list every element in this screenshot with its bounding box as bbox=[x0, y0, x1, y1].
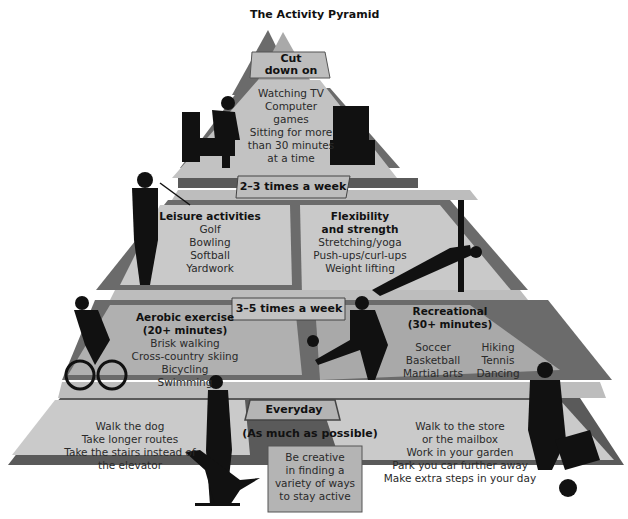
list-item: Dancing bbox=[468, 367, 528, 380]
recreational-col2: Hiking Tennis Dancing bbox=[468, 341, 528, 380]
list-item: Stretching/yoga bbox=[305, 236, 415, 249]
list-item: Be creative bbox=[270, 451, 360, 464]
list-item: Bowling bbox=[155, 236, 265, 249]
list-item: Martial arts bbox=[398, 367, 468, 380]
list-item: Basketball bbox=[398, 354, 468, 367]
list-item: Walk to the store bbox=[380, 420, 540, 433]
frequency-2-3-label: 2–3 times a week bbox=[238, 180, 348, 193]
list-item: Hiking bbox=[468, 341, 528, 354]
frequency-3-5-label: 3–5 times a week bbox=[234, 302, 344, 315]
list-item: Walk the dog bbox=[55, 420, 205, 433]
list-item: Swimming bbox=[120, 376, 250, 389]
list-item: the elevator bbox=[55, 459, 205, 472]
list-item: Park you car further away bbox=[380, 459, 540, 472]
cut-down-label: Cut down on bbox=[258, 53, 324, 77]
as-much-as-possible-label: (As much as possible) bbox=[240, 427, 380, 440]
list-item: Take the stairs instead of bbox=[55, 446, 205, 459]
list-item: Tennis bbox=[468, 354, 528, 367]
flexibility-heading-2: and strength bbox=[305, 223, 415, 236]
list-item: than 30 minutes bbox=[236, 139, 346, 152]
list-item: Push-ups/curl-ups bbox=[305, 249, 415, 262]
list-item: Weight lifting bbox=[305, 262, 415, 275]
flexibility-heading-1: Flexibility bbox=[305, 210, 415, 223]
recreational-heading-2: (30+ minutes) bbox=[390, 318, 510, 331]
list-item: Sitting for more bbox=[236, 126, 346, 139]
everyday-label: Everyday bbox=[254, 403, 334, 416]
list-item: Make extra steps in your day bbox=[380, 472, 540, 485]
list-item: variety of ways bbox=[270, 477, 360, 490]
diagram-title: The Activity Pyramid bbox=[250, 8, 379, 21]
leisure-activities-list: Leisure activities Golf Bowling Softball… bbox=[155, 210, 265, 275]
leisure-heading: Leisure activities bbox=[155, 210, 265, 223]
list-item: Yardwork bbox=[155, 262, 265, 275]
list-item: Watching TV bbox=[236, 87, 346, 100]
list-item: Brisk walking bbox=[120, 337, 250, 350]
aerobic-heading-1: Aerobic exercise bbox=[120, 311, 250, 324]
list-item: Soccer bbox=[398, 341, 468, 354]
list-item: Take longer routes bbox=[55, 433, 205, 446]
list-item: Cross-country skiing bbox=[120, 350, 250, 363]
recreational-heading-1: Recreational bbox=[390, 305, 510, 318]
list-item: in finding a bbox=[270, 464, 360, 477]
aerobic-exercise-list: Aerobic exercise (20+ minutes) Brisk wal… bbox=[120, 311, 250, 389]
aerobic-heading-2: (20+ minutes) bbox=[120, 324, 250, 337]
everyday-right-list: Walk to the store or the mailbox Work in… bbox=[380, 420, 540, 485]
activity-pyramid-diagram: The Activity Pyramid Cut down on Watchin… bbox=[0, 0, 628, 519]
list-item: Softball bbox=[155, 249, 265, 262]
list-item: Computer bbox=[236, 100, 346, 113]
recreational-col1: Soccer Basketball Martial arts bbox=[398, 341, 468, 380]
list-item: at a time bbox=[236, 152, 346, 165]
be-creative-box: Be creative in finding a variety of ways… bbox=[270, 451, 360, 503]
flexibility-strength-list: Flexibility and strength Stretching/yoga… bbox=[305, 210, 415, 275]
cut-down-items: Watching TV Computer games Sitting for m… bbox=[236, 87, 346, 165]
cut-down-line-2: down on bbox=[258, 65, 324, 77]
list-item: Golf bbox=[155, 223, 265, 236]
list-item: Work in your garden bbox=[380, 446, 540, 459]
list-item: games bbox=[236, 113, 346, 126]
everyday-left-list: Walk the dog Take longer routes Take the… bbox=[55, 420, 205, 472]
list-item: or the mailbox bbox=[380, 433, 540, 446]
recreational-heading-block: Recreational (30+ minutes) bbox=[390, 305, 510, 331]
list-item: Bicycling bbox=[120, 363, 250, 376]
list-item: to stay active bbox=[270, 490, 360, 503]
